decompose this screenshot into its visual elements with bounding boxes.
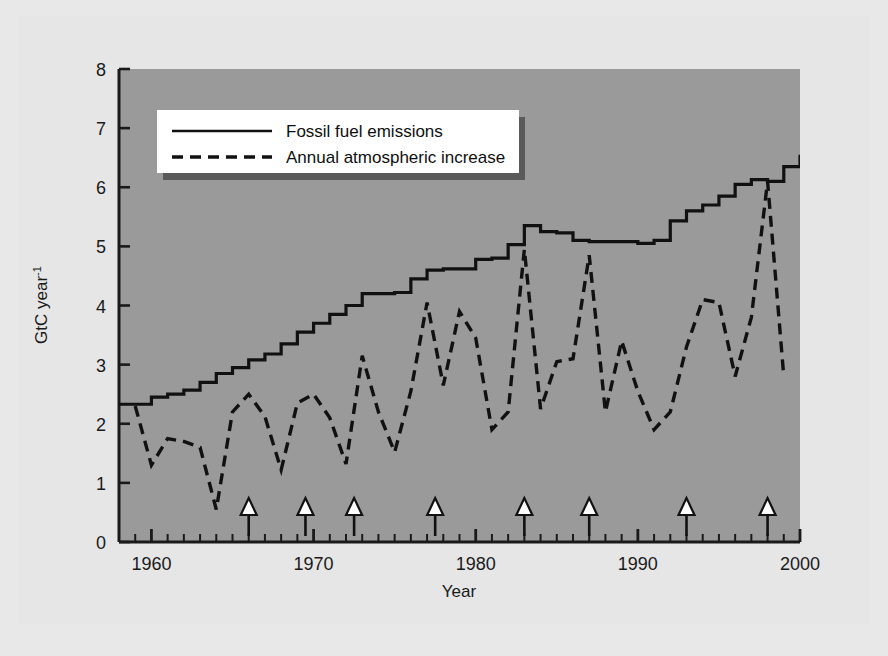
y-axis-title-text: GtC year xyxy=(32,276,51,344)
svg-text:GtC year-1: GtC year-1 xyxy=(31,266,51,344)
y-tick-label: 6 xyxy=(96,178,106,198)
y-tick-label: 0 xyxy=(96,533,106,553)
y-tick-label: 4 xyxy=(96,297,106,317)
x-axis-tick-labels: 19601970198019902000 xyxy=(131,554,820,574)
x-tick-label: 1960 xyxy=(131,554,171,574)
legend-label-annual-atmospheric-increase: Annual atmospheric increase xyxy=(286,148,505,167)
co2-emissions-chart: 012345678 19601970198019902000 Fossil fu… xyxy=(0,0,888,656)
figure-container: 012345678 19601970198019902000 Fossil fu… xyxy=(0,0,888,656)
y-tick-label: 5 xyxy=(96,237,106,257)
y-axis-title: GtC year-1 xyxy=(31,266,51,344)
y-axis-title-exponent: -1 xyxy=(31,266,43,276)
y-tick-label: 7 xyxy=(96,119,106,139)
x-tick-label: 2000 xyxy=(780,554,820,574)
x-tick-label: 1980 xyxy=(456,554,496,574)
x-tick-label: 1990 xyxy=(618,554,658,574)
chart-legend: Fossil fuel emissions Annual atmospheric… xyxy=(157,110,525,180)
y-tick-label: 8 xyxy=(96,60,106,80)
y-axis-tick-labels: 012345678 xyxy=(96,60,106,553)
x-tick-label: 1970 xyxy=(294,554,334,574)
y-tick-label: 3 xyxy=(96,356,106,376)
legend-label-fossil-fuel-emissions: Fossil fuel emissions xyxy=(286,122,443,141)
y-tick-label: 1 xyxy=(96,474,106,494)
y-tick-label: 2 xyxy=(96,415,106,435)
x-axis-title: Year xyxy=(442,582,477,601)
